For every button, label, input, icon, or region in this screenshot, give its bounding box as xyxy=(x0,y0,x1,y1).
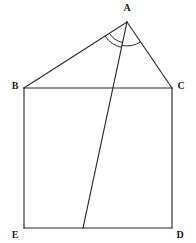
vertex-label-C: C xyxy=(177,80,184,91)
angle-arc-FAC xyxy=(122,42,141,46)
angle-arc-BAF-inner xyxy=(109,33,122,42)
geometry-figure-svg: A B C D E xyxy=(0,0,196,243)
segment-AC xyxy=(127,22,172,88)
geometry-figure-container: A B C D E xyxy=(0,0,196,243)
vertex-label-E: E xyxy=(12,229,19,240)
vertex-label-B: B xyxy=(12,80,19,91)
segment-AF-cevian xyxy=(83,22,127,228)
vertex-label-D: D xyxy=(176,229,183,240)
vertex-label-A: A xyxy=(123,2,131,13)
segment-AB xyxy=(24,22,127,88)
